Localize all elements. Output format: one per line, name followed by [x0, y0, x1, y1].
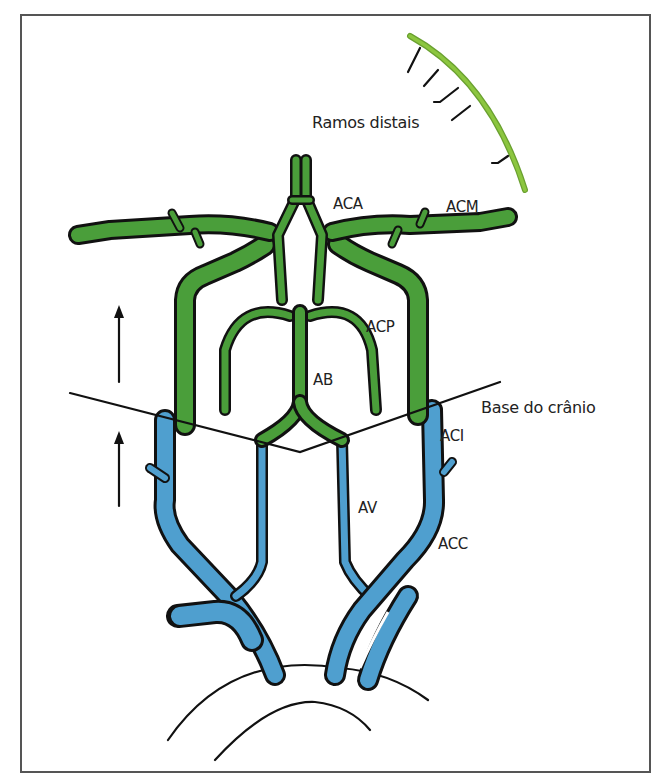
flow-arrow-upper: [114, 305, 124, 382]
distal-branches: [408, 36, 525, 190]
right-middle-cerebral: [332, 212, 508, 244]
label-skull-base: Base do crânio: [481, 398, 595, 417]
flow-arrow-lower: [114, 431, 124, 506]
label-acm: ACM: [446, 198, 479, 216]
label-aca: ACA: [333, 195, 363, 213]
aortic-arch: [168, 665, 428, 760]
posterior-cerebral-left: [225, 312, 290, 410]
label-aci: ACI: [440, 427, 464, 445]
left-vertebral-artery: [236, 440, 262, 596]
label-acc: ACC: [438, 535, 468, 553]
label-acp: ACP: [366, 318, 395, 336]
right-vertebral-artery: [342, 440, 372, 598]
anterior-cerebral: [278, 160, 322, 300]
label-av: AV: [358, 499, 377, 517]
left-middle-cerebral: [78, 213, 270, 244]
right-common-carotid: [335, 410, 452, 680]
label-distal-branches: Ramos distais: [312, 113, 419, 132]
label-ab: AB: [313, 371, 333, 389]
